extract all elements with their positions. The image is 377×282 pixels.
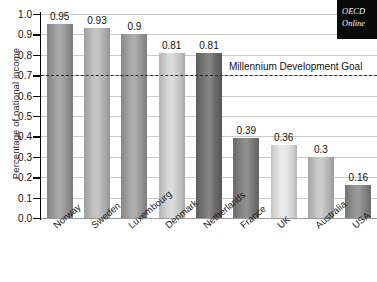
y-axis-tick (33, 96, 41, 97)
bar-value-label: 0.36 (274, 132, 293, 143)
millennium-development-goal-line (41, 75, 377, 76)
y-axis-tick (33, 34, 41, 35)
y-axis-tick (33, 75, 41, 76)
bar-value-label: 0.81 (199, 40, 218, 51)
bar-value-label: 0.81 (162, 40, 181, 51)
y-axis-tick (33, 55, 41, 56)
bar-norway[interactable]: 0.95 (47, 24, 73, 218)
bar-value-label: 0.93 (87, 15, 106, 26)
y-axis-tick-label: 0.5 (0, 111, 32, 122)
y-axis-tick (33, 157, 41, 158)
y-axis-tick-label: 0.6 (0, 90, 32, 101)
y-axis-tick-label: 0.3 (0, 151, 32, 162)
bar-value-label: 0.39 (237, 125, 256, 136)
millennium-development-goal-label: Millennium Development Goal (229, 61, 362, 72)
y-axis-tick-label: 0.1 (0, 192, 32, 203)
bar-chart: Percentage of national income 0.950.930.… (0, 0, 377, 282)
bar-uk[interactable]: 0.36 (271, 145, 297, 218)
oecd-online-watermark: OECD Online (337, 0, 377, 39)
y-axis-tick (33, 218, 41, 219)
y-axis-tick-label: 0.9 (0, 29, 32, 40)
y-axis-tick-label: 0.8 (0, 49, 32, 60)
y-axis-tick-label: 0.2 (0, 172, 32, 183)
bar-value-label: 0.95 (50, 11, 69, 22)
y-axis-tick (33, 198, 41, 199)
y-axis-tick-label: 0.0 (0, 213, 32, 224)
y-axis-tick (33, 177, 41, 178)
bar-luxembourg[interactable]: 0.9 (121, 34, 147, 218)
bar-value-label: 0.3 (314, 144, 328, 155)
bar-value-label: 0.16 (349, 172, 368, 183)
y-axis-tick (33, 116, 41, 117)
y-axis-tick-label: 0.7 (0, 70, 32, 81)
bar-netherlands[interactable]: 0.81 (196, 53, 222, 218)
y-axis-tick (33, 136, 41, 137)
bar-value-label: 0.9 (127, 21, 141, 32)
plot-area: 0.950.930.90.810.810.390.360.30.16 (41, 14, 377, 218)
watermark-line-2: Online (342, 18, 365, 28)
y-axis-tick-label: 0.4 (0, 131, 32, 142)
y-axis-tick-label: 1.0 (0, 9, 32, 20)
y-axis-tick (33, 14, 41, 15)
bar-sweden[interactable]: 0.93 (84, 28, 110, 218)
watermark-line-1: OECD (342, 6, 365, 16)
